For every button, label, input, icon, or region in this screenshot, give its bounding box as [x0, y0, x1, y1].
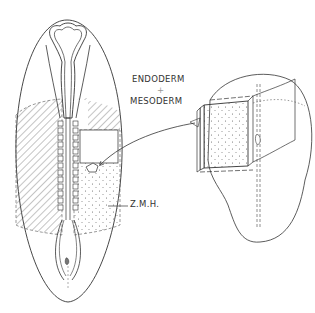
- zmh-stippled-region: [74, 130, 120, 235]
- label-endoderm: ENDODERM: [132, 74, 185, 84]
- label-zmh: Z.M.H.: [130, 199, 159, 209]
- label-plus: +: [157, 85, 164, 95]
- embryo-diagram: [0, 0, 315, 313]
- label-mesoderm: MESODERM: [130, 96, 182, 106]
- excised-block: [197, 79, 305, 227]
